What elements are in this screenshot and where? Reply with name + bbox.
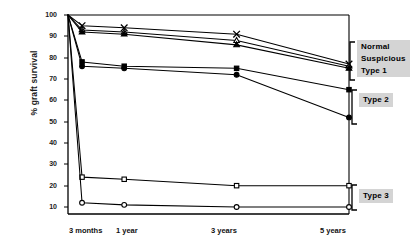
bracket-group-3 <box>352 185 357 210</box>
series-layer <box>68 15 352 209</box>
data-point-3-years <box>234 72 239 77</box>
data-point-3-years <box>234 183 238 187</box>
data-point-5-years <box>347 205 352 210</box>
data-point-5-years <box>347 87 351 91</box>
data-point-3-years <box>234 66 238 70</box>
data-point-3-months <box>80 64 85 69</box>
series-line <box>68 15 349 66</box>
data-point-5-years <box>347 115 352 120</box>
data-point-3-years <box>234 205 239 210</box>
series-line <box>68 15 349 117</box>
data-point-5-years <box>347 183 351 187</box>
series-type-3-a <box>68 15 351 188</box>
series-line <box>68 15 349 186</box>
plot-canvas <box>0 0 420 251</box>
graft-survival-figure: % graft survival 100 90 80 70 60 50 40 3… <box>0 0 420 251</box>
bracket-group-2 <box>352 90 357 124</box>
series-line <box>68 15 349 68</box>
series-normal <box>68 15 352 67</box>
series-type-3-b <box>68 15 351 209</box>
series-type-1 <box>68 15 352 70</box>
data-point-1-year <box>122 202 127 207</box>
data-point-1-year <box>122 177 126 181</box>
data-point-3-months <box>80 200 85 205</box>
data-point-1-year <box>122 66 127 71</box>
